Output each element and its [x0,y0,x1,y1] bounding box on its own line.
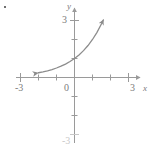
x-tick-label-positive-3: 3 [130,83,135,93]
x-axis-name-label: x [143,84,147,93]
y-tick-label-negative-3: -3 [62,136,70,146]
y-axis [70,8,79,143]
exponential-curve [39,20,104,73]
origin-label: 0 [64,83,69,93]
x-tick-label-negative-3: -3 [15,83,23,93]
coordinate-plane-svg [0,0,154,146]
x-axis [16,73,140,82]
y-tick-label-positive-3: 3 [62,15,67,25]
exponential-function-graph: -3 3 0 3 -3 x y [0,0,154,146]
y-axis-name-label: y [67,2,71,11]
